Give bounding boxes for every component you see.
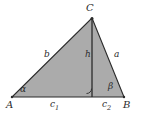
triangle-svg — [0, 0, 141, 119]
geometry-figure: C A B b a h α β c1 c2 — [0, 0, 141, 119]
segment-label-c2: c2 — [102, 100, 111, 111]
vertex-dot-c — [91, 17, 94, 20]
side-label-b: b — [44, 50, 50, 59]
vertex-dot-b — [123, 96, 125, 98]
segment-label-c1: c1 — [50, 100, 59, 111]
vertex-label-c: C — [86, 3, 94, 13]
angle-label-beta: β — [108, 82, 113, 91]
side-label-a: a — [114, 50, 119, 59]
vertex-label-b: B — [123, 100, 130, 110]
segment-label-c2-subscript: 2 — [107, 104, 111, 112]
vertex-dot-a — [11, 96, 13, 98]
segment-label-c1-subscript: 1 — [55, 104, 59, 112]
angle-label-alpha: α — [20, 85, 26, 94]
altitude-label-h: h — [85, 50, 91, 59]
vertex-label-a: A — [6, 100, 13, 110]
